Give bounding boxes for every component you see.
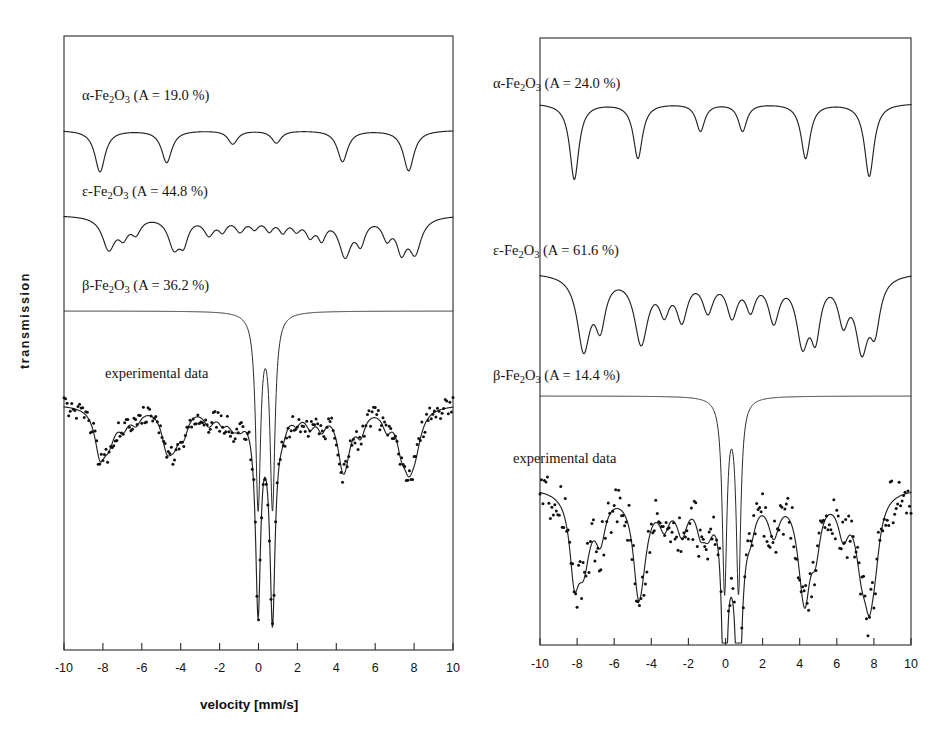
component-label-epsilon: ε-Fe2O3 (A = 44.8 %): [82, 183, 208, 201]
x-axis-tick-label: 2: [759, 657, 766, 671]
x-axis-tick-label: -4: [175, 661, 186, 675]
x-axis-tick-label: 4: [796, 657, 803, 671]
x-axis-tick-label: -4: [646, 657, 657, 671]
beta-component-curve: [64, 311, 453, 511]
x-axis-tick-label: 0: [255, 661, 262, 675]
x-axis-tick-label: -2: [683, 657, 694, 671]
experimental-data-label: experimental data: [513, 450, 617, 466]
component-label-beta: β-Fe2O3 (A = 36.2 %): [82, 277, 209, 295]
x-axis-tick-label: -10: [531, 657, 549, 671]
spectrum-panel-right: transmission velocity [mm/s] -10-8-6-4-2…: [473, 0, 946, 748]
x-axis-tick-label: -8: [97, 661, 108, 675]
spectrum-plot-left: -10-8-6-4-20246810α-Fe2O3 (A = 19.0 %)ε-…: [0, 0, 473, 700]
x-axis-tick-label: -6: [136, 661, 147, 675]
x-axis-tick-label: 10: [904, 657, 918, 671]
spectrum-panel-left: transmission velocity [mm/s] -10-8-6-4-2…: [0, 0, 473, 748]
x-axis-tick-label: 2: [294, 661, 301, 675]
x-axis-tick-label: 10: [446, 661, 460, 675]
x-axis-tick-label: -6: [609, 657, 620, 671]
epsilon-component-curve: [64, 217, 453, 259]
beta-component-curve: [540, 396, 911, 595]
alpha-component-curve: [540, 105, 911, 180]
component-label-beta: β-Fe2O3 (A = 14.4 %): [493, 367, 620, 385]
alpha-component-curve: [64, 131, 453, 172]
x-axis-tick-label: 4: [333, 661, 340, 675]
x-axis-tick-label: -2: [214, 661, 225, 675]
spectrum-plot-right: -10-8-6-4-20246810α-Fe2O3 (A = 24.0 %)ε-…: [473, 0, 946, 700]
x-axis-tick-label: 8: [411, 661, 418, 675]
x-axis-tick-label: 0: [722, 657, 729, 671]
component-label-alpha: α-Fe2O3 (A = 24.0 %): [493, 75, 621, 93]
component-label-epsilon: ε-Fe2O3 (A = 61.6 %): [493, 242, 619, 260]
x-axis-tick-label: 6: [372, 661, 379, 675]
x-axis-tick-label: -8: [572, 657, 583, 671]
experimental-data-label: experimental data: [105, 365, 209, 381]
x-axis-tick-label: 6: [833, 657, 840, 671]
x-axis-label-left: velocity [mm/s]: [200, 697, 298, 712]
y-axis-label-left: transmission: [18, 272, 32, 369]
x-axis-tick-label: 8: [870, 657, 877, 671]
x-axis-tick-label: -10: [55, 661, 73, 675]
experimental-fit-curve: [64, 407, 453, 627]
moessbauer-figure: transmission velocity [mm/s] -10-8-6-4-2…: [0, 0, 946, 748]
plot-frame: [64, 36, 453, 650]
epsilon-component-curve: [540, 276, 911, 357]
plot-frame: [540, 38, 911, 645]
component-label-alpha: α-Fe2O3 (A = 19.0 %): [82, 87, 210, 105]
